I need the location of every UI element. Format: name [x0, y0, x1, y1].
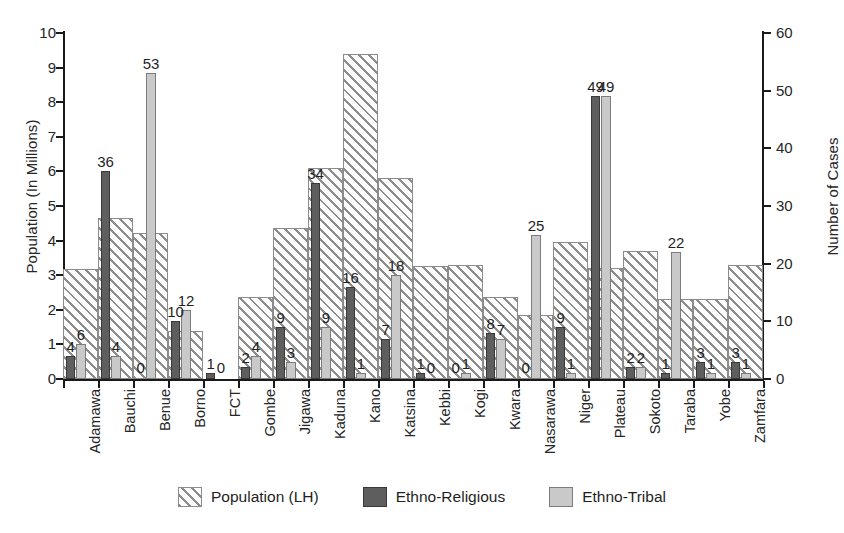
- bar-group: 053: [133, 33, 168, 379]
- bar-ethno-religious[interactable]: [381, 339, 390, 379]
- value-label-ethno-tribal: 1: [558, 356, 584, 371]
- bar-ethno-religious[interactable]: [626, 367, 635, 379]
- value-label-ethno-tribal: 12: [173, 293, 199, 308]
- x-tick: [483, 381, 485, 388]
- y-tick-left: [56, 170, 63, 172]
- y-tick-left: [56, 240, 63, 242]
- x-axis-label-fct: FCT: [227, 389, 243, 417]
- value-label-ethno-tribal: 1: [453, 356, 479, 371]
- value-label-ethno-tribal: 0: [208, 360, 234, 375]
- bar-ethno-religious[interactable]: [311, 183, 320, 379]
- y-axis-right-title: Number of Cases: [824, 87, 841, 307]
- bar-ethno-tribal[interactable]: [321, 327, 330, 379]
- y-tick-label-left: 9: [24, 60, 56, 75]
- x-axis-label-jigawa: Jigawa: [297, 389, 313, 434]
- bar-group: 025: [518, 33, 553, 379]
- bar-ethno-religious[interactable]: [171, 321, 180, 379]
- bar-ethno-religious[interactable]: [66, 356, 75, 379]
- y-tick-label-left: 8: [24, 94, 56, 109]
- y-tick-label-left: 10: [24, 25, 56, 40]
- x-tick: [588, 381, 590, 388]
- bar-ethno-tribal[interactable]: [146, 73, 155, 379]
- x-tick: [133, 381, 135, 388]
- bar-group: 93: [273, 33, 308, 379]
- x-axis-label-katsina: Katsina: [402, 389, 418, 437]
- bar-ethno-tribal[interactable]: [111, 356, 120, 379]
- value-label-ethno-tribal: 7: [488, 322, 514, 337]
- x-axis-label-sokoto: Sokoto: [647, 389, 663, 434]
- x-axis-label-kano: Kano: [367, 389, 383, 423]
- y-tick-right: [764, 378, 771, 380]
- x-axis-label-taraba: Taraba: [682, 389, 698, 433]
- dark-swatch: [363, 487, 387, 507]
- x-axis-label-borno: Borno: [192, 389, 208, 428]
- bar-ethno-tribal[interactable]: [566, 373, 575, 379]
- x-tick: [763, 381, 765, 388]
- y-tick-left: [56, 309, 63, 311]
- bar-ethno-tribal[interactable]: [286, 362, 295, 379]
- x-tick: [658, 381, 660, 388]
- y-tick-label-right: 30: [776, 198, 806, 213]
- value-label-ethno-tribal: 53: [138, 56, 164, 71]
- x-axis-label-kogi: Kogi: [472, 389, 488, 418]
- chart-legend: Population (LH)Ethno-ReligiousEthno-Trib…: [0, 487, 844, 507]
- bar-ethno-tribal[interactable]: [356, 373, 365, 379]
- bar-ethno-tribal[interactable]: [181, 310, 190, 379]
- legend-label: Ethno-Tribal: [582, 488, 666, 506]
- value-label-ethno-tribal: 0: [418, 360, 444, 375]
- value-label-ethno-tribal: 49: [593, 79, 619, 94]
- value-label-ethno-tribal: 1: [348, 356, 374, 371]
- bar-ethno-religious[interactable]: [661, 373, 670, 379]
- value-label-ethno-tribal: 6: [68, 327, 94, 342]
- bar-ethno-religious[interactable]: [486, 333, 495, 379]
- legend-label: Population (LH): [211, 488, 319, 506]
- legend-item[interactable]: Ethno-Religious: [363, 487, 505, 507]
- x-tick: [378, 381, 380, 388]
- bar-ethno-tribal[interactable]: [636, 367, 645, 379]
- value-label-ethno-religious: 0: [513, 360, 539, 375]
- x-tick: [168, 381, 170, 388]
- bar-ethno-tribal[interactable]: [496, 339, 505, 379]
- y-tick-left: [56, 101, 63, 103]
- value-label-ethno-religious: 7: [373, 322, 399, 337]
- x-tick: [553, 381, 555, 388]
- bar-group: 4949: [588, 33, 623, 379]
- y-tick-left: [56, 32, 63, 34]
- x-axis-label-niger: Niger: [577, 389, 593, 424]
- x-tick: [308, 381, 310, 388]
- bar-ethno-tribal[interactable]: [706, 373, 715, 379]
- value-label-ethno-religious: 9: [268, 310, 294, 325]
- bar-ethno-tribal[interactable]: [741, 373, 750, 379]
- bar-group: 349: [308, 33, 343, 379]
- x-tick: [693, 381, 695, 388]
- value-label-ethno-tribal: 1: [698, 356, 724, 371]
- plot-area: 4636405310121024933491617181001870259149…: [63, 33, 763, 379]
- value-label-ethno-tribal: 4: [243, 339, 269, 354]
- y-tick-right: [764, 320, 771, 322]
- y-tick-label-right: 0: [776, 371, 806, 386]
- value-label-ethno-religious: 1: [653, 356, 679, 371]
- hatch-swatch: [178, 487, 202, 507]
- x-tick: [63, 381, 65, 388]
- y-tick-left: [56, 67, 63, 69]
- bar-group: 24: [238, 33, 273, 379]
- value-label-ethno-tribal: 9: [313, 310, 339, 325]
- x-tick: [203, 381, 205, 388]
- bar-ethno-religious[interactable]: [241, 367, 250, 379]
- y-tick-left: [56, 274, 63, 276]
- x-tick: [518, 381, 520, 388]
- bar-group: 10: [413, 33, 448, 379]
- legend-item[interactable]: Population (LH): [178, 487, 319, 507]
- bar-group: 22: [623, 33, 658, 379]
- light-swatch: [549, 487, 573, 507]
- y-tick-left: [56, 205, 63, 207]
- bar-ethno-religious[interactable]: [591, 96, 600, 379]
- bar-ethno-tribal[interactable]: [531, 235, 540, 379]
- y-tick-label-left: 2: [24, 302, 56, 317]
- y-tick-left: [56, 378, 63, 380]
- bar-ethno-tribal[interactable]: [601, 96, 610, 379]
- bar-group: 1012: [168, 33, 203, 379]
- legend-item[interactable]: Ethno-Tribal: [549, 487, 666, 507]
- value-label-ethno-religious: 9: [548, 310, 574, 325]
- y-tick-label-left: 5: [24, 198, 56, 213]
